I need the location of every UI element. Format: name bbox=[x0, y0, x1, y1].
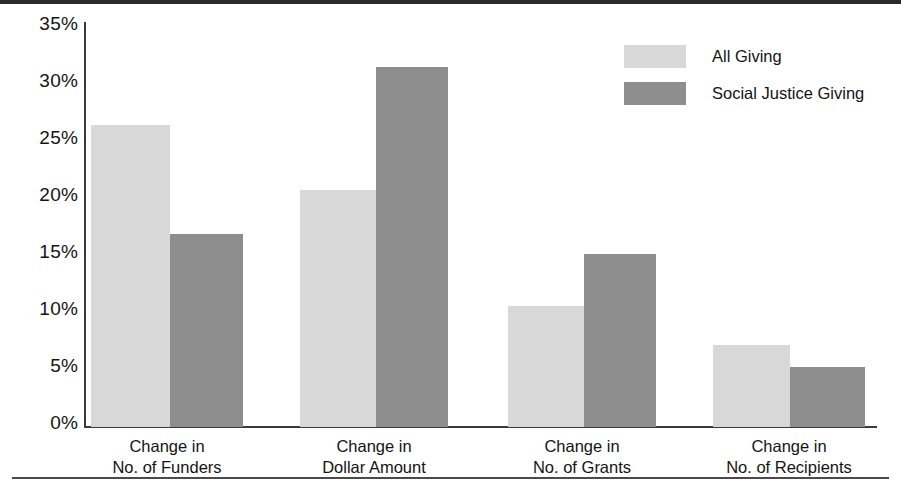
x-label-change-in-no-of-grants: Change in No. of Grants bbox=[506, 436, 658, 478]
bar-all-giving-3[interactable] bbox=[713, 345, 790, 427]
x-label-line1-2: Change in bbox=[544, 437, 619, 455]
bar-group-change-in-dollar-amount bbox=[300, 21, 448, 427]
x-label-line2-1: Dollar Amount bbox=[298, 457, 450, 478]
chart-legend: All Giving Social Justice Giving bbox=[624, 44, 894, 110]
legend-swatch-all-giving-icon bbox=[624, 45, 686, 68]
bar-all-giving-1[interactable] bbox=[300, 190, 376, 427]
x-label-line1-3: Change in bbox=[751, 437, 826, 455]
bar-group-change-in-no-of-funders bbox=[91, 21, 243, 427]
x-label-line1-0: Change in bbox=[129, 437, 204, 455]
bar-social-justice-giving-3[interactable] bbox=[790, 367, 865, 427]
x-label-line2-2: No. of Grants bbox=[506, 457, 658, 478]
legend-label-social-justice-giving: Social Justice Giving bbox=[712, 83, 864, 103]
bar-chart-figure: 35% 30% 25% 20% 15% 10% 5% 0% bbox=[0, 0, 901, 487]
x-label-change-in-dollar-amount: Change in Dollar Amount bbox=[298, 436, 450, 478]
bar-social-justice-giving-0[interactable] bbox=[170, 234, 243, 427]
bar-all-giving-0[interactable] bbox=[91, 125, 170, 427]
bar-social-justice-giving-1[interactable] bbox=[376, 67, 448, 427]
bar-all-giving-2[interactable] bbox=[508, 306, 584, 427]
x-label-line1-1: Change in bbox=[336, 437, 411, 455]
x-label-line2-3: No. of Recipients bbox=[707, 457, 871, 478]
x-axis-category-labels: Change in No. of Funders Change in Dolla… bbox=[0, 436, 901, 482]
x-label-change-in-no-of-funders: Change in No. of Funders bbox=[91, 436, 243, 478]
legend-swatch-social-justice-giving-icon bbox=[624, 82, 686, 105]
legend-item-all-giving[interactable]: All Giving bbox=[624, 44, 782, 68]
legend-item-social-justice-giving[interactable]: Social Justice Giving bbox=[624, 81, 864, 105]
x-label-change-in-no-of-recipients: Change in No. of Recipients bbox=[707, 436, 871, 478]
x-label-line2-0: No. of Funders bbox=[91, 457, 243, 478]
legend-label-all-giving: All Giving bbox=[712, 46, 782, 66]
bar-social-justice-giving-2[interactable] bbox=[584, 254, 656, 427]
